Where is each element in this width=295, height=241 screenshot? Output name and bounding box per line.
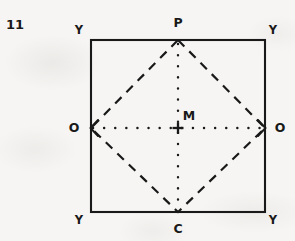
label-vertex-c: C	[173, 223, 182, 236]
center-plus-icon	[173, 123, 184, 134]
label-vertex-o-right: O	[275, 122, 286, 135]
label-vertex-o-left: O	[69, 122, 80, 135]
figure-canvas: 11 Y Y Y Y P C O O M	[0, 0, 295, 241]
geometry-figure	[0, 0, 295, 241]
label-center-m: M	[183, 110, 195, 123]
label-corner-bottom-left: Y	[75, 215, 83, 227]
label-corner-top-right: Y	[269, 25, 277, 37]
label-corner-bottom-right: Y	[269, 215, 277, 227]
label-corner-top-left: Y	[75, 25, 83, 37]
label-vertex-p: P	[173, 17, 182, 30]
label-index: 11	[6, 18, 24, 31]
